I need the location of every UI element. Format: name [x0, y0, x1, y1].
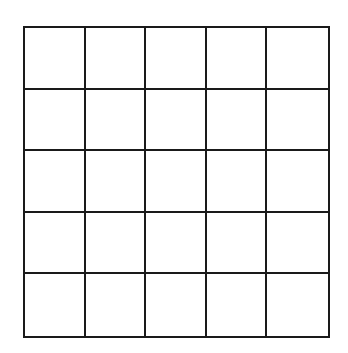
grid-cell-r2-c4 [207, 90, 268, 152]
grid-cell-r5-c1 [25, 274, 86, 336]
grid-cell-r2-c3 [146, 90, 207, 152]
grid-cell-r4-c1 [25, 213, 86, 275]
grid-cell-r5-c2 [86, 274, 147, 336]
grid-cell-r2-c1 [25, 90, 86, 152]
grid-cell-r4-c5 [267, 213, 328, 275]
grid-cell-r5-c3 [146, 274, 207, 336]
grid-cell-r4-c4 [207, 213, 268, 275]
grid-cell-r1-c3 [146, 28, 207, 90]
grid-cell-r3-c4 [207, 151, 268, 213]
grid-cell-r5-c5 [267, 274, 328, 336]
grid-cell-r1-c1 [25, 28, 86, 90]
grid-cell-r1-c4 [207, 28, 268, 90]
grid-cell-r5-c4 [207, 274, 268, 336]
grid-cell-r3-c3 [146, 151, 207, 213]
grid-cell-r3-c5 [267, 151, 328, 213]
diagram-canvas [0, 0, 348, 353]
grid-cell-r1-c2 [86, 28, 147, 90]
grid-cell-r2-c5 [267, 90, 328, 152]
grid-cell-r4-c3 [146, 213, 207, 275]
grid-cell-r4-c2 [86, 213, 147, 275]
grid-cell-r3-c1 [25, 151, 86, 213]
grid-cell-r3-c2 [86, 151, 147, 213]
grid-cell-r2-c2 [86, 90, 147, 152]
grid-cell-r1-c5 [267, 28, 328, 90]
grid-5x5 [23, 26, 330, 338]
